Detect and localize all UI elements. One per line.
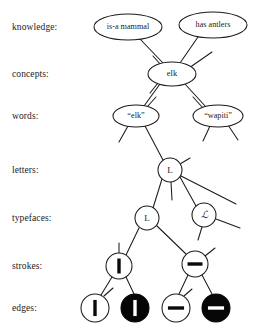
node-edge-horizontal-light[interactable] [162,294,190,322]
link-strokeH-edge4 [202,275,212,294]
glyph-horizontal-bar [188,262,203,265]
node-label-elk-word: “elk” [127,111,145,120]
stub-elkword-upright [147,97,156,107]
glyph-vertical-bar [117,259,120,274]
stub-scriptL-downleft [198,227,202,240]
link-elkword-letterL [145,126,163,160]
stub-letterL-right [181,176,236,204]
node-stroke-horizontal[interactable] [182,251,208,277]
stub-elk-upright [189,52,212,68]
glyph-vertical-bar [93,300,96,316]
node-letter-L[interactable]: L [158,158,182,182]
stub-wapiti-downright [228,125,238,140]
row-label-words: words: [12,111,38,121]
row-label-letters: letters: [12,165,39,175]
stub-scriptL-right [216,219,240,228]
stub-elkword-downleft [119,126,128,142]
row-label-layer: knowledge:concepts:words:letters:typefac… [12,22,57,313]
node-label-has-antlers: has antlers [196,20,231,29]
node-edge-horizontal-dark[interactable] [202,294,230,322]
link-mammal-elk [140,39,163,63]
node-label-typeface-L: L [144,213,150,223]
diagram-page: is-a mammalhas antlerselk“elk”“wapiti”LL… [0,0,275,330]
node-typeface-script-L[interactable]: ℒ [192,203,216,227]
node-typeface-L[interactable]: L [135,206,159,230]
node-elk-word[interactable]: “elk” [113,105,159,127]
node-label-typeface-script-L: ℒ [201,209,209,220]
node-label-wapiti-word: “wapiti” [204,111,232,120]
link-typeL-strokeH [157,226,186,254]
node-edge-vertical-dark[interactable] [121,294,149,322]
link-strokeV-edge1 [101,277,112,295]
row-label-knowledge: knowledge: [12,22,57,32]
row-label-edges: edges: [12,303,37,313]
link-letterL-scriptL [180,177,196,206]
link-strokeH-edge3 [179,275,188,294]
row-label-concepts: concepts: [12,69,49,79]
row-label-typefaces: typefaces: [12,213,52,223]
node-edge-vertical-light[interactable] [81,294,109,322]
link-typeL-strokeV [126,228,139,255]
node-label-elk-concept: elk [167,68,178,78]
node-label-is-a-mammal: is-a mammal [107,22,150,31]
row-label-strokes: strokes: [12,261,42,271]
stub-strokeH-upright [205,248,215,256]
stub-edge1-up [104,288,113,296]
glyph-horizontal-bar [208,306,224,309]
glyph-vertical-bar [133,300,136,316]
link-elk-wapiti [185,84,206,107]
node-is-a-mammal[interactable]: is-a mammal [94,14,162,40]
glyph-horizontal-bar [168,306,184,309]
node-label-letter-L: L [167,165,173,175]
link-letterL-typeL [153,179,162,208]
link-strokeV-edge2 [126,277,134,294]
stub-wapiti-downleft [203,126,210,141]
node-has-antlers[interactable]: has antlers [179,12,247,38]
link-antlers-elk [180,37,198,63]
knowledge-hierarchy-diagram: is-a mammalhas antlerselk“elk”“wapiti”LL… [0,0,275,330]
stub-letterL-down [171,182,172,200]
node-layer: is-a mammalhas antlerselk“elk”“wapiti”LL… [81,12,247,322]
node-stroke-vertical[interactable] [106,253,132,279]
node-elk-concept[interactable]: elk [148,62,196,86]
stub-edge3-up [184,289,192,296]
stub-letterL-upright [180,158,190,164]
node-wapiti-word[interactable]: “wapiti” [193,105,243,127]
link-elk-elkword [144,84,160,106]
